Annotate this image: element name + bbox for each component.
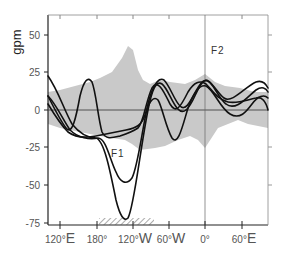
shaded-envelope xyxy=(48,46,268,150)
y-tick-labels: 50 25 0 -25 -50 -75 xyxy=(26,30,41,229)
x-tick-60e: 60°E xyxy=(232,230,256,246)
annotation-f2: F2 xyxy=(211,45,225,56)
y-tick-50: 50 xyxy=(29,30,41,41)
annotation-f1: F1 xyxy=(111,148,125,159)
x-tick-0: 0° xyxy=(200,234,210,245)
y-tick-neg50: -50 xyxy=(26,180,41,191)
x-tick-120e: 120°E xyxy=(45,230,75,246)
x-tick-60w: 60°W xyxy=(157,230,186,246)
x-tick-120w: 120°W xyxy=(118,230,153,246)
y-tick-0: 0 xyxy=(34,105,40,116)
x-tick-labels: 120°E 180° 120°W 60°W 0° 60°E xyxy=(45,230,256,246)
y-tick-25: 25 xyxy=(29,67,41,78)
y-tick-neg25: -25 xyxy=(26,142,41,153)
y-tick-neg75: -75 xyxy=(26,218,41,229)
x-tick-180: 180° xyxy=(87,234,108,245)
y-axis-label: gpm xyxy=(9,29,24,54)
top-ticks xyxy=(60,15,242,19)
chart: 50 25 0 -25 -50 -75 gpm 120°E 180° 120°W… xyxy=(0,0,282,253)
